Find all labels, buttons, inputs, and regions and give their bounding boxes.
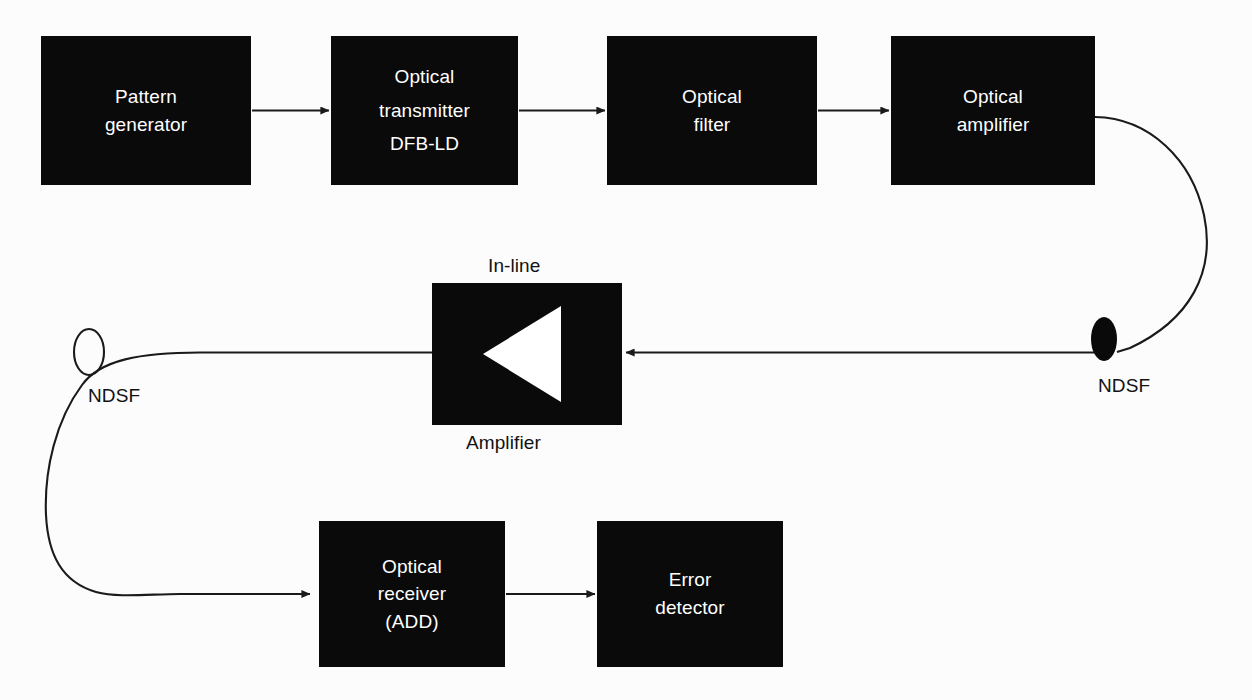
- block-label-line: (ADD): [385, 608, 438, 636]
- block-label-line: Error: [669, 566, 712, 594]
- block-diagram-canvas: Pattern generator Optical transmitter DF…: [0, 0, 1252, 700]
- block-label-line: Optical: [382, 553, 442, 581]
- amplifier-triangle-icon: [483, 306, 561, 402]
- block-label-line: receiver: [378, 580, 446, 608]
- block-label-line: amplifier: [957, 111, 1030, 139]
- caption-ndsf-left: NDSF: [88, 385, 140, 407]
- caption-in-line: In-line: [488, 255, 540, 277]
- block-label-line: DFB-LD: [390, 130, 459, 158]
- connector-amplifier-to-ndsf-right: [1095, 117, 1207, 352]
- block-optical-transmitter[interactable]: Optical transmitter DFB-LD: [331, 36, 518, 185]
- block-label-line: detector: [655, 594, 724, 622]
- block-optical-receiver[interactable]: Optical receiver (ADD): [319, 521, 505, 667]
- caption-amplifier: Amplifier: [466, 432, 541, 454]
- block-optical-amplifier[interactable]: Optical amplifier: [891, 36, 1095, 185]
- block-pattern-generator[interactable]: Pattern generator: [41, 36, 251, 185]
- block-label-line: Optical: [395, 63, 455, 91]
- block-label-line: Optical: [963, 83, 1023, 111]
- caption-ndsf-right: NDSF: [1098, 375, 1150, 397]
- block-error-detector[interactable]: Error detector: [597, 521, 783, 667]
- block-label-line: Pattern: [115, 83, 177, 111]
- block-label-line: filter: [694, 111, 731, 139]
- ndsf-left-spool-icon: [74, 329, 104, 375]
- block-label-line: Optical: [682, 83, 742, 111]
- block-label-line: generator: [105, 111, 187, 139]
- block-in-line-amplifier[interactable]: [432, 283, 622, 425]
- block-label-line: transmitter: [379, 97, 470, 125]
- block-optical-filter[interactable]: Optical filter: [607, 36, 817, 185]
- ndsf-right-spool-icon: [1091, 317, 1117, 361]
